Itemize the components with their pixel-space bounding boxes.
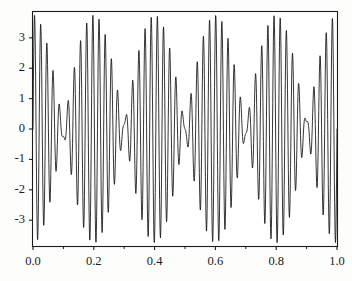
x-tick-label: 0.0 — [13, 254, 53, 269]
chart-figure: -3-2-10123 0.00.20.40.60.81.0 — [0, 0, 352, 281]
y-tick-label: 0 — [19, 121, 25, 136]
plot-canvas — [0, 0, 352, 281]
x-tick-label: 0.8 — [256, 254, 296, 269]
x-tick-label: 0.6 — [195, 254, 235, 269]
y-tick-label: 1 — [19, 91, 25, 106]
y-tick-label: 3 — [19, 30, 25, 45]
x-tick-label: 0.2 — [74, 254, 114, 269]
x-tick-label: 0.4 — [135, 254, 175, 269]
y-tick-label: -3 — [15, 212, 25, 227]
x-tick-label: 1.0 — [317, 254, 352, 269]
y-tick-label: -2 — [15, 182, 25, 197]
y-tick-label: 2 — [19, 60, 25, 75]
y-tick-label: -1 — [15, 151, 25, 166]
